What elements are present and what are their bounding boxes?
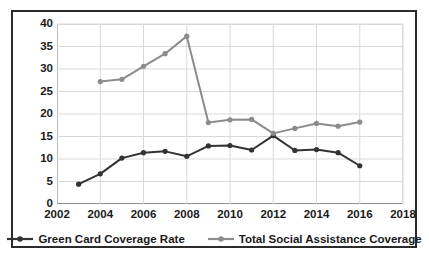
data-point [119, 156, 124, 161]
y-axis-tick-label: 40 [40, 18, 53, 30]
x-axis-tick-label: 2002 [44, 208, 70, 220]
data-point [206, 120, 211, 125]
data-point [314, 121, 319, 126]
data-point [292, 148, 297, 153]
data-point [336, 150, 341, 155]
chart-container: 0510152025303540 20022004200620082010201… [11, 10, 417, 248]
data-point [76, 182, 81, 187]
x-axis-tick-label: 2018 [390, 208, 416, 220]
legend-label-total-social-assistance: Total Social Assistance Coverage [239, 233, 422, 245]
y-axis-tick-label: 35 [40, 41, 53, 53]
y-axis-tick-label: 25 [40, 86, 53, 98]
x-axis-tick-label: 2008 [174, 208, 200, 220]
y-axis-tick-labels: 0510152025303540 [13, 24, 53, 204]
y-axis-tick-label: 10 [40, 153, 53, 165]
data-point [119, 77, 124, 82]
legend-entry-green-card: Green Card Coverage Rate [6, 233, 184, 245]
data-point [336, 124, 341, 129]
plot-area [57, 24, 403, 204]
data-point [98, 79, 103, 84]
chart-legend: Green Card Coverage Rate Total Social As… [13, 228, 415, 250]
data-point [357, 163, 362, 168]
data-point [249, 147, 254, 152]
data-point [227, 143, 232, 148]
data-point [98, 171, 103, 176]
data-point [271, 131, 276, 136]
x-axis-tick-label: 2004 [87, 208, 113, 220]
y-axis-tick-label: 30 [40, 63, 53, 75]
x-axis-tick-label: 2016 [347, 208, 373, 220]
data-point [184, 154, 189, 159]
legend-marker-icon [207, 233, 235, 245]
y-axis-tick-label: 15 [40, 131, 53, 143]
x-axis-tick-labels: 200220042006200820102012201420162018 [57, 208, 403, 224]
data-point [141, 64, 146, 69]
data-point [141, 150, 146, 155]
data-point [314, 147, 319, 152]
legend-entry-total-social-assistance: Total Social Assistance Coverage [207, 233, 422, 245]
x-axis-tick-label: 2010 [217, 208, 243, 220]
data-point [292, 126, 297, 131]
x-axis-tick-label: 2006 [131, 208, 157, 220]
data-point [184, 34, 189, 39]
y-axis-tick-label: 20 [40, 108, 53, 120]
data-point [206, 143, 211, 148]
data-point [357, 120, 362, 125]
data-series-layer [57, 24, 403, 204]
data-point [249, 117, 254, 122]
data-point [163, 149, 168, 154]
legend-label-green-card: Green Card Coverage Rate [38, 233, 184, 245]
y-axis-tick-label: 5 [47, 176, 53, 188]
x-axis-tick-label: 2012 [260, 208, 286, 220]
legend-marker-icon [6, 233, 34, 245]
data-point [227, 117, 232, 122]
x-axis-tick-label: 2014 [304, 208, 330, 220]
data-point [163, 51, 168, 56]
